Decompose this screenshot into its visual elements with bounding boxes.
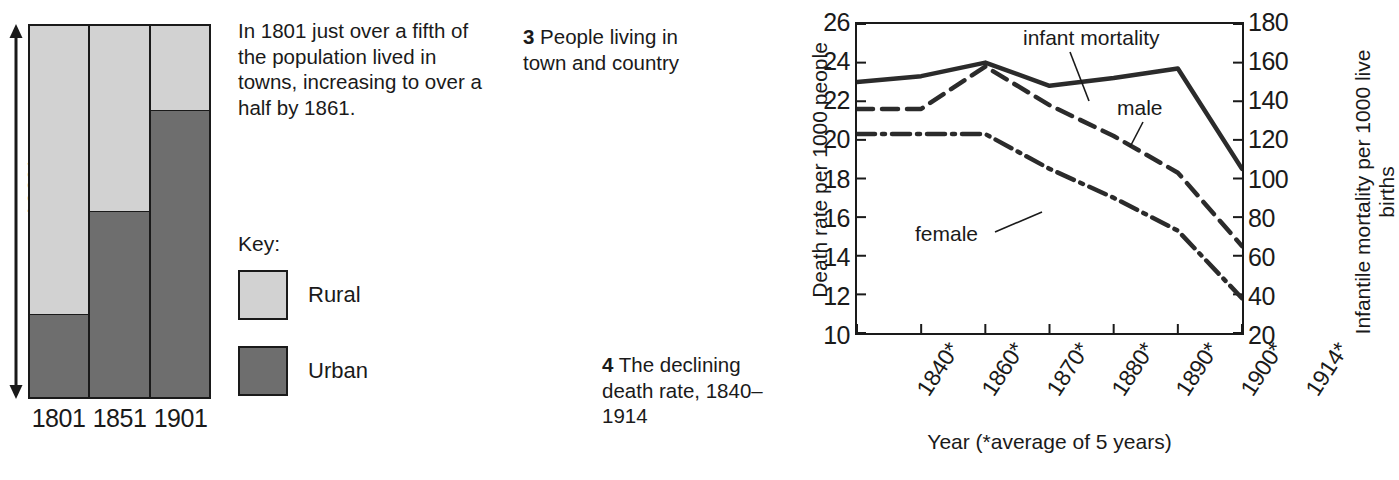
y-tick-right: 120 bbox=[1248, 125, 1288, 154]
hundred-percent-arrow-icon bbox=[8, 24, 24, 399]
y-tick-left: 18 bbox=[823, 164, 850, 193]
line-plot-area bbox=[855, 22, 1244, 335]
annotation-male: male bbox=[1117, 96, 1163, 120]
key-title: Key: bbox=[238, 232, 478, 256]
series-male bbox=[857, 66, 1242, 246]
figure-caption-text: People living in town and country bbox=[523, 25, 679, 74]
x-tick-label: 1840* bbox=[911, 338, 965, 401]
bar-segment-urban bbox=[30, 314, 88, 397]
x-axis-title: Year (*average of 5 years) bbox=[855, 430, 1244, 454]
line-chart: Death rate per 1000 people Infantile mor… bbox=[770, 0, 1341, 480]
bar-x-label: 1801 bbox=[28, 404, 89, 433]
x-tick-label: 1914* bbox=[1300, 338, 1354, 401]
y-tick-right: 40 bbox=[1248, 281, 1275, 310]
bar-segment-urban bbox=[151, 110, 209, 397]
x-tick-label: 1890* bbox=[1171, 338, 1225, 401]
bar-x-label: 1851 bbox=[89, 404, 150, 433]
bar-column-1801 bbox=[30, 26, 90, 397]
y-tick-left: 22 bbox=[823, 86, 850, 115]
annotation-female: female bbox=[915, 222, 978, 246]
series-female bbox=[857, 134, 1242, 298]
figure-caption-3: 3 People living in town and country bbox=[523, 24, 723, 75]
x-tick-label: 1880* bbox=[1106, 338, 1160, 401]
key-item-urban: Urban bbox=[238, 346, 478, 396]
y-tick-left: 20 bbox=[823, 125, 850, 154]
x-axis-tick-labels: 1840*1860*1870*1880*1890*1900*1914* bbox=[855, 338, 1244, 422]
y-tick-left: 12 bbox=[823, 281, 850, 310]
y-axis-left-ticks: 101214161820222426 bbox=[794, 22, 850, 335]
y-tick-right: 180 bbox=[1248, 8, 1288, 37]
figure-caption-text: The declining death rate, 1840–1914 bbox=[602, 353, 763, 427]
key-swatch-rural-icon bbox=[238, 270, 288, 320]
y-tick-right: 140 bbox=[1248, 86, 1288, 115]
bar-plot-area bbox=[28, 24, 211, 399]
x-tick-label: 1870* bbox=[1041, 338, 1095, 401]
y-tick-left: 10 bbox=[823, 321, 850, 350]
key-label-urban: Urban bbox=[308, 358, 368, 384]
y-axis-right-title: Infantile mortality per 1000 live births bbox=[1351, 27, 1399, 357]
y-tick-right: 100 bbox=[1248, 164, 1288, 193]
figure-number: 4 bbox=[602, 353, 613, 376]
bar-segment-rural bbox=[90, 26, 148, 212]
y-tick-left: 14 bbox=[823, 242, 850, 271]
chart-key: Key: Rural Urban bbox=[238, 232, 478, 422]
bar-x-axis-labels: 1801 1851 1901 bbox=[28, 404, 211, 433]
key-item-rural: Rural bbox=[238, 270, 478, 320]
y-tick-left: 26 bbox=[823, 8, 850, 37]
y-tick-left: 24 bbox=[823, 47, 850, 76]
key-swatch-urban-icon bbox=[238, 346, 288, 396]
bar-segment-urban bbox=[90, 211, 148, 398]
bar-x-label: 1901 bbox=[150, 404, 211, 433]
x-tick-label: 1860* bbox=[976, 338, 1030, 401]
y-tick-right: 60 bbox=[1248, 242, 1275, 271]
bar-column-1851 bbox=[90, 26, 150, 397]
annotation-infant-mortality: infant mortality bbox=[1023, 26, 1160, 50]
key-label-rural: Rural bbox=[308, 282, 361, 308]
y-tick-right: 160 bbox=[1248, 47, 1288, 76]
line-series-svg bbox=[857, 24, 1242, 333]
bar-segment-rural bbox=[30, 26, 88, 315]
y-tick-right: 80 bbox=[1248, 203, 1275, 232]
bar-segment-rural bbox=[151, 26, 209, 111]
stacked-bar-chart: 100% 1801 1851 1901 bbox=[0, 0, 232, 480]
y-tick-left: 16 bbox=[823, 203, 850, 232]
figure-number: 3 bbox=[523, 25, 534, 48]
x-tick-label: 1900* bbox=[1235, 338, 1289, 401]
series-infant-mortality bbox=[857, 63, 1242, 169]
intro-paragraph: In 1801 just over a fifth of the populat… bbox=[238, 18, 496, 120]
bar-column-1901 bbox=[151, 26, 209, 397]
figure-caption-4: 4 The declining death rate, 1840–1914 bbox=[602, 352, 782, 429]
y-axis-right-ticks: 20406080100120140160180 bbox=[1248, 22, 1304, 335]
